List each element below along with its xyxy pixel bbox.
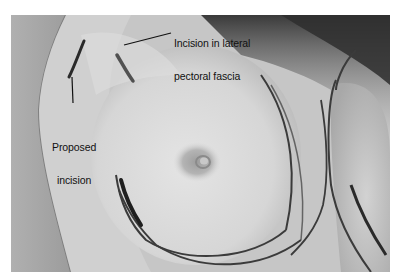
annotation-fascia-line1: Incision in lateral (174, 38, 250, 49)
annotation-fascia-incision: Incision in lateral pectoral fascia (174, 16, 250, 93)
annotation-proposed-incision: Proposed incision (52, 120, 96, 197)
annotation-proposed-line2: incision (52, 175, 96, 186)
annotation-fascia-line2: pectoral fascia (174, 71, 250, 82)
annotation-proposed-line1: Proposed (52, 142, 96, 153)
